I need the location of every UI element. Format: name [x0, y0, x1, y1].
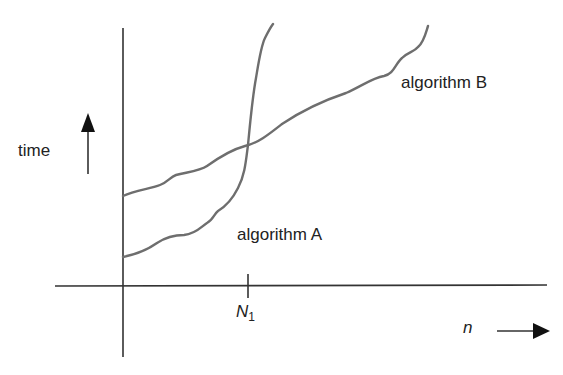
diagram-canvas: [0, 0, 563, 375]
label-algorithm-a: algorithm A: [237, 225, 322, 245]
label-algorithm-b: algorithm B: [401, 73, 487, 93]
curve-algorithm-a: [123, 24, 273, 257]
right-arrow-icon: [497, 323, 550, 339]
tick-label-n1: N1: [236, 302, 255, 324]
curve-algorithm-b: [123, 26, 428, 196]
up-arrow-icon: [81, 113, 95, 174]
y-axis-label: time: [18, 141, 50, 161]
x-axis: [55, 285, 547, 286]
tick-label-main: N: [236, 302, 248, 321]
tick-label-subscript: 1: [248, 310, 255, 324]
x-axis-label: n: [463, 318, 472, 338]
